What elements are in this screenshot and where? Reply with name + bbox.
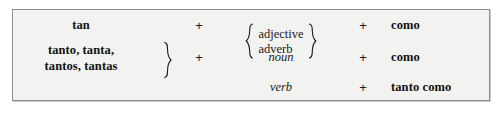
row-2-right-term: como [385, 51, 489, 65]
formula-grid: tan + adjective adverb + como tanto, tan… [13, 10, 489, 100]
row-1-plus-second: + [341, 19, 385, 33]
row-2-middle-term: noun [221, 51, 341, 65]
row-1-plus-first: + [177, 19, 221, 33]
row-2-left-closing-brace-icon [163, 41, 173, 75]
middle-option-adjective: adjective [258, 27, 303, 41]
row-2-plus-first: + [177, 51, 221, 65]
row-3-plus-second: + [341, 81, 385, 95]
row-2-left-term: tanto, tanta, tantos, tantas [13, 42, 163, 75]
row-1-right-term: como [385, 19, 489, 33]
row-2-left-line-1: tanto, tanta, [13, 42, 149, 59]
comparison-formula-box: tan + adjective adverb + como tanto, tan… [12, 9, 490, 101]
row-3-middle-term: verb [221, 81, 341, 95]
row-2-plus-second: + [341, 51, 385, 65]
row-1-left-term: tan [13, 19, 163, 33]
row-3-right-term: tanto como [385, 81, 489, 95]
row-2-left-line-2: tantos, tantas [13, 58, 149, 75]
